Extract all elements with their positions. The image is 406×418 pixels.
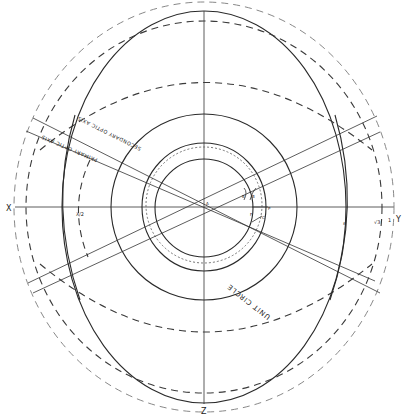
right-inner-mark: ε xyxy=(343,220,346,226)
inner-dashed-arc-bottom xyxy=(40,264,372,332)
center-label-c: C xyxy=(262,215,265,220)
right-outer-mark: 1 xyxy=(388,217,391,223)
inner-dashed-arc-top xyxy=(40,83,372,151)
right-mid-mark: √3 xyxy=(374,219,380,225)
left-dashed-arc xyxy=(78,160,90,257)
center-label-a: A xyxy=(206,201,209,206)
x-axis-label: X xyxy=(6,204,12,213)
y-axis-label: Y xyxy=(395,215,401,224)
z-axis-label: Z xyxy=(201,407,207,416)
optic-axis-diagram: X Y Z SECONDARY OPTIC AXIS PRIMARY OPTIC… xyxy=(0,0,406,418)
center-label-b2: B xyxy=(252,194,255,199)
secondary-optic-axis-2 xyxy=(28,116,377,283)
left-inner-mark: λ/2 xyxy=(76,211,84,217)
diagram-canvas: X Y Z SECONDARY OPTIC AXIS PRIMARY OPTIC… xyxy=(0,0,406,418)
secondary-optic-axis-label: SECONDARY OPTIC AXIS xyxy=(76,115,142,152)
center-label-b1: B xyxy=(242,194,245,199)
